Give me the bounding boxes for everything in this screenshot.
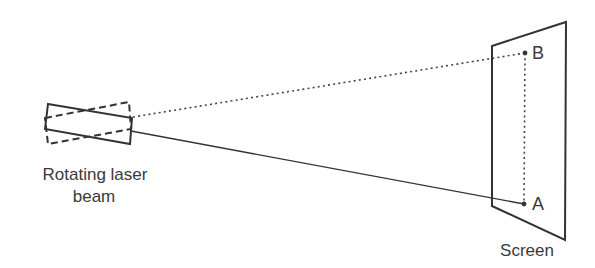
laser-screen-diagram: B A Rotating laser beam Screen — [0, 0, 595, 268]
screen-panel — [492, 22, 566, 240]
point-a-label: A — [532, 194, 544, 214]
beam-solid-to-a — [131, 131, 524, 204]
point-a-marker — [522, 202, 527, 207]
rotating-laser — [45, 102, 132, 144]
beam-dotted-to-b — [133, 53, 525, 117]
path-b-to-a — [524, 53, 525, 204]
point-b-marker — [523, 51, 528, 56]
laser-dashed-rect — [45, 102, 131, 144]
laser-label-line1: Rotating laser — [43, 165, 148, 184]
laser-label-line2: beam — [73, 187, 116, 206]
point-b-label: B — [532, 43, 544, 63]
screen-label: Screen — [500, 241, 554, 260]
